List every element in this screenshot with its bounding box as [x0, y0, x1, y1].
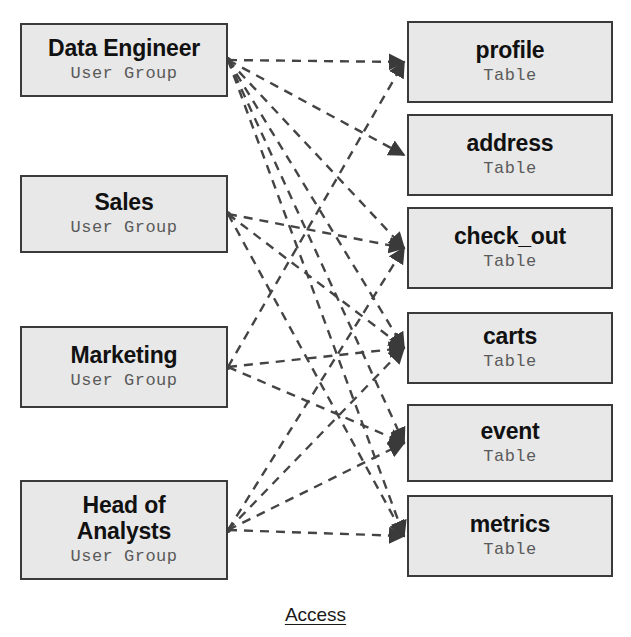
edge-marketing-to-event [228, 367, 404, 443]
node-title: check_out [454, 224, 566, 250]
node-subtitle: User Group [70, 371, 177, 391]
node-subtitle: User Group [70, 547, 177, 567]
edge-data_engineer-to-metrics [228, 60, 404, 536]
node-title: Sales [94, 190, 153, 216]
node-title: Head ofAnalysts [77, 493, 171, 545]
edges [225, 57, 404, 536]
edge-sales-to-check_out [228, 214, 404, 248]
node-title: address [467, 131, 554, 157]
node-subtitle: Table [483, 252, 537, 272]
edge-head_of_analysts-to-metrics [228, 530, 404, 536]
table-node-profile[interactable]: profileTable [407, 21, 613, 103]
table-node-address[interactable]: addressTable [407, 114, 613, 196]
node-subtitle: Table [483, 66, 537, 86]
edge-data_engineer-to-check_out [228, 60, 404, 248]
node-title: metrics [470, 512, 550, 538]
node-title: profile [476, 38, 545, 64]
node-title: Data Engineer [48, 36, 200, 62]
table-node-check_out[interactable]: check_outTable [407, 207, 613, 289]
edge-data_engineer-to-event [228, 60, 404, 443]
edge-sales-to-metrics [228, 214, 404, 536]
node-title: event [480, 419, 539, 445]
diagram-caption: Access [0, 604, 631, 626]
node-subtitle: Table [483, 352, 537, 372]
edge-data_engineer-to-carts [228, 60, 404, 348]
node-subtitle: Table [483, 540, 537, 560]
table-node-carts[interactable]: cartsTable [407, 312, 613, 384]
node-title: Marketing [71, 343, 178, 369]
edge-data_engineer-to-address [228, 60, 404, 155]
access-diagram-canvas: Data EngineerUser GroupSalesUser GroupMa… [0, 0, 631, 637]
user-group-node-data_engineer[interactable]: Data EngineerUser Group [20, 23, 228, 97]
edge-marketing-to-profile [228, 62, 404, 367]
edge-marketing-to-carts [228, 348, 404, 367]
node-subtitle: User Group [70, 218, 177, 238]
user-group-node-marketing[interactable]: MarketingUser Group [20, 326, 228, 408]
edge-head_of_analysts-to-check_out [228, 248, 404, 530]
node-subtitle: Table [483, 447, 537, 467]
table-node-metrics[interactable]: metricsTable [407, 495, 613, 577]
edge-data_engineer-to-profile [228, 60, 404, 62]
node-title: carts [483, 324, 537, 350]
edge-head_of_analysts-to-carts [228, 348, 404, 530]
node-subtitle: Table [483, 159, 537, 179]
edge-sales-to-carts [228, 214, 404, 348]
node-subtitle: User Group [70, 64, 177, 84]
user-group-node-head_of_analysts[interactable]: Head ofAnalystsUser Group [20, 480, 228, 580]
table-node-event[interactable]: eventTable [407, 404, 613, 482]
user-group-node-sales[interactable]: SalesUser Group [20, 175, 228, 253]
edge-head_of_analysts-to-event [228, 443, 404, 530]
